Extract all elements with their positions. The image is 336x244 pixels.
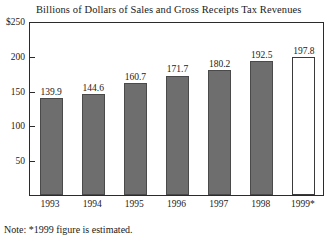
x-tick-label: 1996 (167, 199, 186, 209)
bar-value-label: 160.7 (125, 72, 146, 82)
chart-figure: Billions of Dollars of Sales and Gross R… (0, 0, 336, 244)
plot-area: 139.9144.6160.7171.7180.2192.5197.8 (30, 23, 323, 195)
bar-1996 (166, 76, 189, 196)
bar-1994 (82, 94, 105, 195)
bar-value-label: 192.5 (251, 50, 272, 60)
y-tick-label: $250 (6, 17, 25, 27)
x-tick-label: 1995 (125, 199, 144, 209)
bar-value-label: 197.8 (293, 46, 314, 56)
y-axis: $25020015010050 (0, 0, 29, 244)
y-tick-mark (30, 126, 35, 127)
bar-1999-est (292, 57, 315, 195)
y-tick-label: 50 (16, 156, 26, 166)
bar-value-label: 144.6 (83, 83, 104, 93)
x-tick-label: 1999* (291, 199, 315, 209)
bar-1993 (40, 98, 63, 195)
bar-value-label: 171.7 (167, 64, 188, 74)
x-tick-label: 1993 (41, 199, 60, 209)
bar-value-label: 180.2 (209, 59, 230, 69)
x-tick-label: 1998 (251, 199, 270, 209)
chart-title: Billions of Dollars of Sales and Gross R… (36, 4, 302, 15)
y-tick-label: 150 (11, 87, 25, 97)
bar-1997 (208, 70, 231, 195)
y-tick-mark (30, 57, 35, 58)
y-tick-mark (30, 92, 35, 93)
y-tick-mark (30, 161, 35, 162)
bar-1998 (250, 61, 273, 195)
plot-frame: 139.9144.6160.7171.7180.2192.5197.8 (29, 22, 324, 196)
x-tick-label: 1994 (83, 199, 102, 209)
footnote: Note: *1999 figure is estimated. (4, 224, 133, 235)
bar-value-label: 139.9 (40, 87, 61, 97)
x-tick-label: 1997 (209, 199, 228, 209)
bar-1995 (124, 83, 147, 195)
y-tick-label: 200 (11, 52, 25, 62)
y-tick-label: 100 (11, 121, 25, 131)
